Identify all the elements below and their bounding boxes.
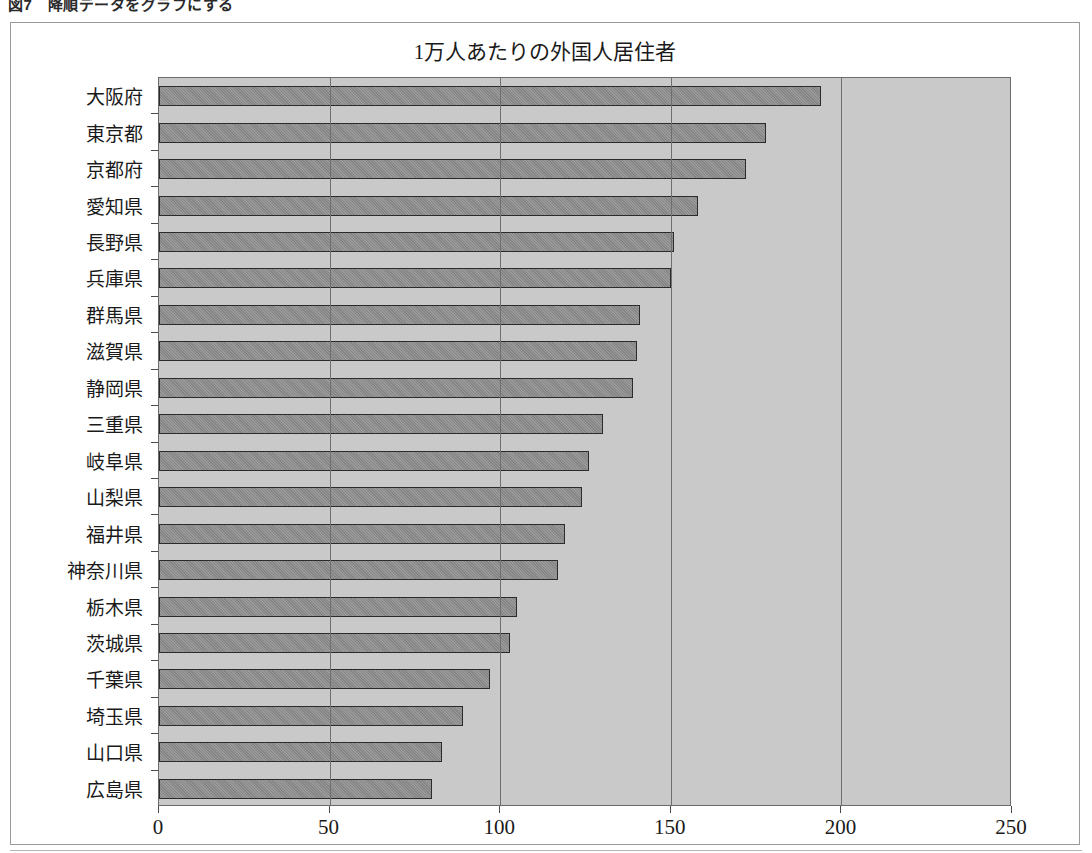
x-axis-tick-100: [499, 806, 500, 813]
y-axis-label-茨城県: 茨城県: [86, 628, 143, 655]
grid-line-100: [500, 78, 501, 805]
y-axis-label-滋賀県: 滋賀県: [86, 337, 143, 364]
y-axis-label-広島県: 広島県: [86, 774, 143, 801]
bar-row: [159, 479, 1010, 515]
bar-row: [159, 224, 1010, 260]
y-axis: 大阪府東京都京都府愛知県長野県兵庫県群馬県滋賀県静岡県三重県岐阜県山梨県福井県神…: [21, 77, 151, 806]
bar-row: [159, 333, 1010, 369]
x-axis-label-150: 150: [654, 815, 686, 840]
bar-大阪府: [159, 86, 821, 106]
y-axis-label-群馬県: 群馬県: [86, 300, 143, 327]
bar-row: [159, 698, 1010, 734]
y-axis-tick: [151, 514, 158, 515]
y-axis-tick: [151, 770, 158, 771]
bar-row: [159, 114, 1010, 150]
bar-岐阜県: [159, 451, 589, 471]
y-axis-label-埼玉県: 埼玉県: [86, 701, 143, 728]
bar-神奈川県: [159, 560, 558, 580]
bar-row: [159, 771, 1010, 807]
bar-茨城県: [159, 633, 510, 653]
bar-山口県: [159, 742, 442, 762]
y-axis-tick: [151, 369, 158, 370]
chart-title: 1万人あたりの外国人居住者: [11, 35, 1079, 65]
y-axis-label-長野県: 長野県: [86, 228, 143, 255]
bar-群馬県: [159, 305, 640, 325]
y-axis-tick: [151, 113, 158, 114]
figure-frame: 1万人あたりの外国人居住者 大阪府東京都京都府愛知県長野県兵庫県群馬県滋賀県静岡…: [10, 22, 1080, 845]
x-axis-label-50: 50: [318, 815, 339, 840]
y-axis-label-栃木県: 栃木県: [86, 592, 143, 619]
bar-row: [159, 406, 1010, 442]
y-axis-tick: [151, 405, 158, 406]
grid-line-200: [841, 78, 842, 805]
bar-row: [159, 443, 1010, 479]
y-axis-label-大阪府: 大阪府: [86, 82, 143, 109]
bar-山梨県: [159, 487, 582, 507]
x-axis-tick-50: [329, 806, 330, 813]
bar-福井県: [159, 524, 565, 544]
bars-layer: [159, 78, 1010, 805]
y-axis-label-岐阜県: 岐阜県: [86, 446, 143, 473]
y-axis-tick: [151, 697, 158, 698]
y-axis-tick: [151, 223, 158, 224]
x-axis-label-100: 100: [483, 815, 515, 840]
y-axis-label-兵庫県: 兵庫県: [86, 264, 143, 291]
x-axis-tick-200: [840, 806, 841, 813]
bar-京都府: [159, 159, 746, 179]
x-axis-tick-150: [670, 806, 671, 813]
y-axis-label-千葉県: 千葉県: [86, 665, 143, 692]
x-axis-label-200: 200: [825, 815, 857, 840]
y-axis-label-京都府: 京都府: [86, 155, 143, 182]
bar-滋賀県: [159, 341, 637, 361]
bar-row: [159, 370, 1010, 406]
bar-row: [159, 187, 1010, 223]
bar-千葉県: [159, 669, 490, 689]
y-axis-tick: [151, 478, 158, 479]
grid-line-150: [671, 78, 672, 805]
bar-静岡県: [159, 378, 633, 398]
bar-row: [159, 151, 1010, 187]
bar-row: [159, 588, 1010, 624]
bar-row: [159, 734, 1010, 770]
bar-愛知県: [159, 196, 698, 216]
y-axis-label-神奈川県: 神奈川県: [67, 556, 143, 583]
bar-row: [159, 78, 1010, 114]
y-axis-label-山口県: 山口県: [86, 738, 143, 765]
bar-row: [159, 297, 1010, 333]
figure-caption: 図7 降順データをグラフにする: [8, 0, 234, 14]
y-axis-label-三重県: 三重県: [86, 410, 143, 437]
x-axis-tick-0: [158, 806, 159, 813]
bar-row: [159, 661, 1010, 697]
y-axis-label-福井県: 福井県: [86, 519, 143, 546]
y-axis-tick: [151, 186, 158, 187]
page-bottom-rule: [10, 850, 1082, 851]
bar-三重県: [159, 414, 603, 434]
y-axis-label-静岡県: 静岡県: [86, 373, 143, 400]
bar-広島県: [159, 779, 432, 799]
bar-row: [159, 625, 1010, 661]
y-axis-tick: [151, 442, 158, 443]
y-axis-label-愛知県: 愛知県: [86, 191, 143, 218]
y-axis-tick: [151, 332, 158, 333]
y-axis-tick: [151, 551, 158, 552]
bar-row: [159, 552, 1010, 588]
bar-row: [159, 515, 1010, 551]
bar-長野県: [159, 232, 674, 252]
x-axis-tick-250: [1011, 806, 1012, 813]
bar-row: [159, 260, 1010, 296]
bar-東京都: [159, 123, 766, 143]
x-axis-label-0: 0: [153, 815, 164, 840]
y-axis-tick: [151, 624, 158, 625]
y-axis-label-山梨県: 山梨県: [86, 483, 143, 510]
bar-埼玉県: [159, 706, 463, 726]
y-axis-tick: [151, 660, 158, 661]
plot-area: [158, 77, 1011, 806]
x-axis-label-250: 250: [995, 815, 1027, 840]
y-axis-tick: [151, 259, 158, 260]
y-axis-tick: [151, 296, 158, 297]
y-axis-tick: [151, 587, 158, 588]
y-axis-tick: [151, 733, 158, 734]
y-axis-label-東京都: 東京都: [86, 118, 143, 145]
bar-栃木県: [159, 597, 517, 617]
bar-兵庫県: [159, 268, 671, 288]
